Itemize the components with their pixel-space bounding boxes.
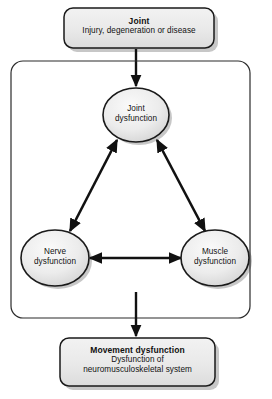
node-nerve-dysfunction bbox=[21, 230, 89, 286]
connector-joint-nerve-link bbox=[70, 140, 117, 231]
drop-shadows bbox=[24, 12, 252, 390]
diagram-canvas: Joint Injury, degeneration or disease Jo… bbox=[0, 0, 272, 399]
bottom-box-movement-dysfunction bbox=[60, 338, 215, 386]
node-joint-dysfunction bbox=[103, 88, 169, 142]
connector-joint-muscle-link bbox=[157, 140, 205, 231]
diagram-vector-layer bbox=[0, 0, 272, 399]
top-box-joint bbox=[64, 8, 214, 48]
node-muscle-dysfunction bbox=[181, 230, 249, 286]
